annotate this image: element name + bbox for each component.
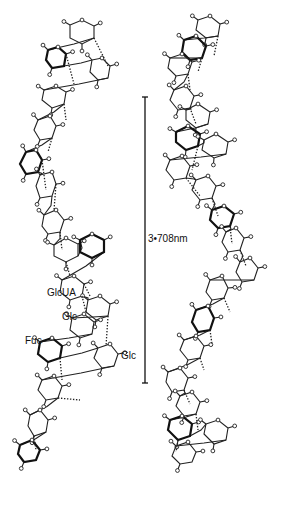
oxygen-atom <box>167 83 171 87</box>
oxygen-atom <box>263 265 267 269</box>
ring-oxygen-atom <box>180 154 184 158</box>
ring-oxygen-atom <box>54 84 58 88</box>
figure-canvas: 3•708nm GlcUA Glc Fuc Glc <box>0 0 283 507</box>
oxygen-atom <box>177 333 181 337</box>
sugar-ring <box>28 410 48 436</box>
ring-oxygen-atom <box>180 52 184 56</box>
oxygen-atom <box>190 14 194 18</box>
ring-oxygen-atom <box>50 170 54 174</box>
molecular-structure-drawing <box>0 0 283 507</box>
oxygen-atom <box>85 53 89 57</box>
sugar-ring <box>204 420 228 444</box>
oxygen-atom <box>77 343 81 347</box>
oxygen-atom <box>163 52 167 56</box>
oxygen-atom <box>72 235 76 239</box>
ring-oxygen-atom <box>30 438 34 442</box>
oxygen-atom <box>95 85 99 89</box>
ring-oxygen-atom <box>178 366 182 370</box>
ring-oxygen-atom <box>190 390 194 394</box>
sugar-ring <box>18 440 40 462</box>
sugar-ring <box>202 134 228 158</box>
oxygen-atom <box>48 73 52 77</box>
ring-oxygen-atom <box>220 274 224 278</box>
oxygen-atom <box>21 178 25 182</box>
ring-oxygen-atom <box>222 204 226 208</box>
oxygen-atom <box>233 285 237 289</box>
oxygen-atom <box>214 233 218 237</box>
ring-oxygen-atom <box>52 374 56 378</box>
sugar-ring <box>80 234 104 258</box>
oxygen-atom <box>205 399 209 403</box>
oxygen-atom <box>189 173 193 177</box>
oxygen-atom <box>67 342 71 346</box>
oxygen-atom <box>221 183 225 187</box>
oxygen-atom <box>23 408 27 412</box>
oxygen-atom <box>71 88 75 92</box>
oxygen-atom <box>19 467 23 471</box>
oxygen-atom <box>176 469 180 473</box>
oxygen-atom <box>205 130 209 134</box>
sugar-ring <box>196 16 220 38</box>
oxygen-atom <box>21 144 25 148</box>
ring-oxygen-atom <box>80 18 84 22</box>
oxygen-atom <box>80 49 84 53</box>
oxygen-atom <box>168 397 172 401</box>
oxygen-atom <box>37 208 41 212</box>
oxygen-atom <box>46 240 50 244</box>
ring-oxygen-atom <box>214 132 218 136</box>
oxygen-atom <box>173 389 177 393</box>
ring-oxygen-atom <box>82 312 86 316</box>
oxygen-atom <box>195 163 199 167</box>
oxygen-atom <box>71 50 75 54</box>
oxygen-atom <box>177 33 181 37</box>
oxygen-atom <box>89 280 93 284</box>
oxygen-atom <box>199 418 203 422</box>
oxygen-atom <box>41 43 45 47</box>
oxygen-atom <box>234 255 238 259</box>
sugar-ring <box>20 150 42 174</box>
oxygen-atom <box>98 373 102 377</box>
oxygen-atom <box>186 65 190 69</box>
oxygen-atom <box>233 138 237 142</box>
ring-oxygen-atom <box>184 84 188 88</box>
hydrogen-bond <box>224 298 230 312</box>
oxygen-atom <box>225 20 229 24</box>
oxygen-atom <box>190 302 194 306</box>
scale-bar-label: 3•708nm <box>148 234 188 244</box>
ring-oxygen-atom <box>194 334 198 338</box>
oxygen-atom <box>215 108 219 112</box>
oxygen-atom <box>13 439 17 443</box>
sugar-ring <box>46 47 66 68</box>
oxygen-atom <box>211 449 215 453</box>
ring-oxygen-atom <box>216 418 220 422</box>
oxygen-atom <box>62 20 66 24</box>
ring-oxygen-atom <box>196 102 200 106</box>
ring-oxygen-atom <box>38 408 42 412</box>
oxygen-atom <box>168 127 172 131</box>
oxygen-atom <box>67 305 71 309</box>
ring-oxygen-atom <box>180 414 184 418</box>
oxygen-atom <box>99 318 103 322</box>
ring-oxygen-atom <box>90 232 94 236</box>
oxygen-atom <box>69 216 73 220</box>
oxygen-atom <box>53 416 57 420</box>
oxygen-atom <box>201 449 205 453</box>
sugar-ring <box>70 20 94 44</box>
oxygen-atom <box>180 421 184 425</box>
oxygen-atom <box>163 414 167 418</box>
oxygen-atom <box>249 235 253 239</box>
oxygen-atom <box>115 300 119 304</box>
oxygen-atom <box>199 93 203 97</box>
ring-oxygen-atom <box>64 236 68 240</box>
hydrogen-bond <box>84 284 90 296</box>
glycosidic-bond <box>60 348 98 358</box>
oxygen-atom <box>32 113 36 117</box>
oxygen-atom <box>45 367 49 371</box>
oxygen-atom <box>219 315 223 319</box>
oxygen-atom <box>42 405 46 409</box>
sugar-ring <box>42 86 66 108</box>
ring-oxygen-atom <box>72 274 76 278</box>
oxygen-atom <box>61 123 65 127</box>
hydrogen-bond <box>106 316 108 346</box>
oxygen-atom <box>238 287 242 291</box>
